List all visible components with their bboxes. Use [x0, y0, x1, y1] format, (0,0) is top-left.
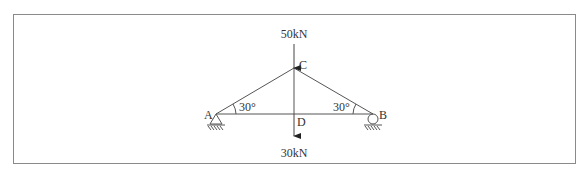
angle-arc-b	[353, 104, 356, 114]
angle-label-b: 30°	[333, 100, 350, 114]
node-label-a: A	[204, 108, 213, 122]
truss-diagram: 50kN 30kN C A B D 30° 30°	[0, 0, 585, 174]
load-bottom-label: 30kN	[281, 146, 308, 160]
node-label-d: D	[297, 115, 306, 129]
angle-label-a: 30°	[239, 100, 256, 114]
angle-arc-a	[233, 104, 236, 114]
node-label-b: B	[379, 108, 387, 122]
node-label-c: C	[299, 58, 307, 72]
load-top-label: 50kN	[281, 27, 308, 41]
